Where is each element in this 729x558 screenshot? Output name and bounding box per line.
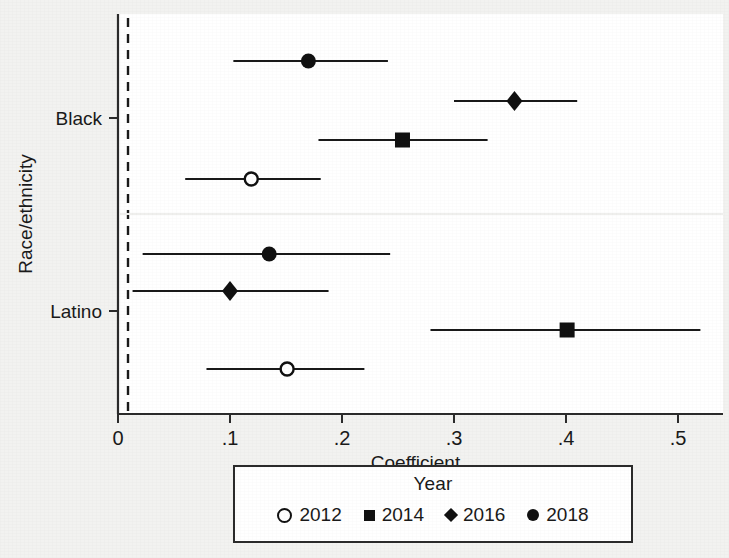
y-category-label-latino: Latino (50, 301, 102, 322)
legend-marker-filled-diamond-icon (444, 508, 458, 522)
point-marker-open-circle (281, 363, 294, 376)
estimate-row (206, 363, 364, 376)
legend-marker-filled-square-icon (364, 510, 375, 521)
point-marker-filled-square (560, 323, 575, 338)
estimate-row (430, 323, 700, 338)
legend-marker-filled-circle-icon (527, 509, 539, 521)
estimate-row (133, 281, 329, 301)
point-marker-filled-diamond (506, 91, 522, 111)
point-marker-filled-circle (262, 247, 277, 262)
point-marker-filled-square (395, 133, 410, 148)
legend-item-2018[interactable]: 2018 (527, 504, 588, 526)
legend-item-label: 2014 (382, 504, 424, 526)
estimate-row (185, 173, 321, 186)
x-tick-label-0: 0 (112, 427, 123, 449)
x-tick-label-4: .4 (558, 427, 575, 449)
legend-item-label: 2016 (463, 504, 505, 526)
legend-item-2014[interactable]: 2014 (364, 504, 424, 526)
legend-item-2016[interactable]: 2016 (446, 504, 505, 526)
point-marker-open-circle (245, 173, 258, 186)
x-tick-label-2: .2 (334, 427, 351, 449)
legend-item-2012[interactable]: 2012 (277, 504, 341, 526)
estimate-row (143, 247, 391, 262)
legend-items: 2012201420162018 (235, 504, 631, 526)
y-category-label-black: Black (56, 108, 103, 129)
legend-marker-open-circle-icon (277, 508, 292, 523)
estimate-row (318, 133, 487, 148)
figure-canvas: 0.1.2.3.4.5CoefficientRace/ethnicityBlac… (0, 0, 729, 558)
x-tick-label-1: .1 (222, 427, 239, 449)
x-tick-label-5: .5 (670, 427, 687, 449)
legend-item-label: 2018 (546, 504, 588, 526)
legend: Year 2012201420162018 (233, 465, 633, 543)
y-axis-title: Race/ethnicity (15, 154, 36, 274)
estimate-row (233, 54, 388, 69)
legend-title: Year (235, 473, 631, 495)
figure-inner: 0.1.2.3.4.5CoefficientRace/ethnicityBlac… (0, 0, 729, 558)
estimate-row (454, 91, 577, 111)
point-marker-filled-circle (301, 54, 316, 69)
legend-item-label: 2012 (299, 504, 341, 526)
x-tick-label-3: .3 (446, 427, 463, 449)
point-marker-filled-diamond (222, 281, 238, 301)
